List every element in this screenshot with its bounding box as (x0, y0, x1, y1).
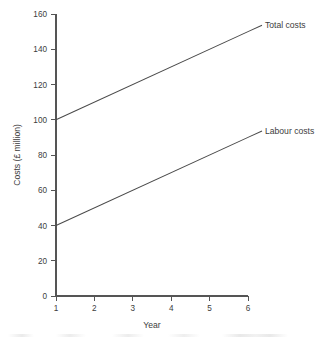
x-tick-label-4: 4 (169, 304, 174, 313)
series-line-total-costs (56, 32, 248, 120)
x-tick-label-3: 3 (131, 304, 136, 313)
line-chart-figure: 0 20 40 60 80 100 120 140 160 1 2 3 4 5 … (0, 0, 319, 339)
y-tick-label-80: 80 (38, 151, 48, 160)
y-tick-label-40: 40 (38, 222, 48, 231)
y-tick-label-100: 100 (33, 116, 47, 125)
series-leader-total-costs (248, 25, 262, 31)
y-tick-label-20: 20 (38, 257, 48, 266)
x-axis-title: Year (143, 320, 161, 330)
series-label-labour-costs: Labour costs (265, 126, 314, 136)
y-axis-ticks (51, 14, 56, 296)
y-tick-label-120: 120 (33, 81, 47, 90)
series-line-labour-costs (56, 137, 248, 225)
x-axis-tick-labels: 1 2 3 4 5 6 (54, 304, 251, 313)
y-tick-label-60: 60 (38, 186, 48, 195)
x-axis-ticks (56, 296, 248, 301)
y-tick-label-160: 160 (33, 10, 47, 19)
y-tick-label-0: 0 (42, 292, 47, 301)
y-axis-tick-labels: 0 20 40 60 80 100 120 140 160 (33, 10, 47, 301)
series-leader-labour-costs (248, 131, 262, 137)
y-tick-label-140: 140 (33, 45, 47, 54)
series-label-total-costs: Total costs (265, 20, 306, 30)
y-axis-title: Costs (£ million) (12, 124, 22, 186)
x-tick-label-5: 5 (207, 304, 212, 313)
x-tick-label-1: 1 (54, 304, 59, 313)
chart-canvas: 0 20 40 60 80 100 120 140 160 1 2 3 4 5 … (0, 0, 319, 339)
x-tick-label-6: 6 (246, 304, 251, 313)
x-tick-label-2: 2 (92, 304, 97, 313)
